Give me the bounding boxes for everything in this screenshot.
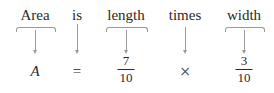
denominator: 10 <box>236 71 253 85</box>
arrow-down-icon <box>183 50 187 54</box>
word-length: length <box>107 7 145 24</box>
brace-length <box>106 27 148 32</box>
word-is: is <box>72 7 82 24</box>
arrow-length-stem <box>126 30 127 52</box>
arrow-is-stem <box>77 24 78 52</box>
arrow-times-stem <box>185 27 186 52</box>
word-times: times <box>169 7 202 24</box>
numerator: 3 <box>236 54 253 68</box>
brace-width <box>225 27 265 32</box>
word-area: Area <box>20 7 49 24</box>
brace-area <box>16 27 56 32</box>
numerator: 7 <box>118 54 135 68</box>
arrow-width-stem <box>244 30 245 52</box>
equals-sign: = <box>73 63 81 80</box>
fraction-seven-tenths: 7 10 <box>118 54 135 85</box>
variable-a: A <box>30 63 39 80</box>
fraction-three-tenths: 3 10 <box>236 54 253 85</box>
arrow-area-stem <box>35 30 36 52</box>
word-width: width <box>227 7 261 24</box>
times-sign: × <box>179 63 191 79</box>
arrow-down-icon <box>75 50 79 54</box>
arrow-down-icon <box>33 50 37 54</box>
denominator: 10 <box>118 71 135 85</box>
